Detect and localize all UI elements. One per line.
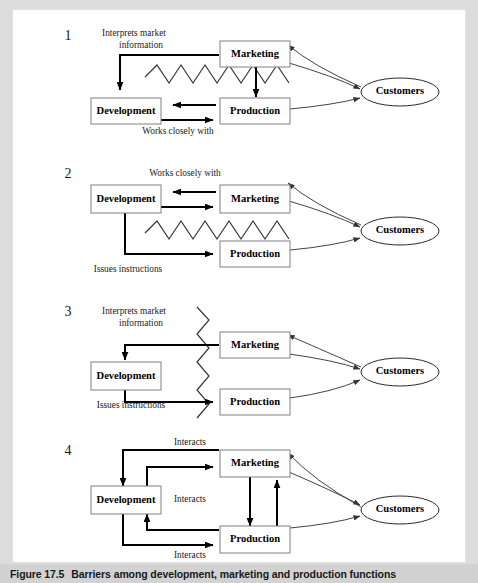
panel-4-arrow-development-to-marketing <box>147 467 213 486</box>
figure-container: 1 Interprets market information <box>0 0 478 583</box>
panel-2-annotation-issues-instructions: Issues instructions <box>94 264 163 274</box>
panel-3-label-customers: Customers <box>376 365 424 376</box>
panel-4-arrow-customers-to-marketing <box>288 453 361 507</box>
panel-4-label-marketing: Marketing <box>231 457 280 468</box>
panel-4-arrow-marketing-to-customers <box>289 472 360 505</box>
panel-3-label-development: Development <box>97 370 156 381</box>
panel-3-annotation-interprets-line2: information <box>119 318 163 328</box>
panel-1-annotation-interprets-line2: information <box>119 40 163 50</box>
panel-2-barrier-zigzag <box>145 221 289 239</box>
panel-3-label-production: Production <box>230 396 280 407</box>
panel-1-arrow-marketing-to-development <box>120 55 219 90</box>
panel-1-label-development: Development <box>97 105 156 116</box>
panel-4-label-production: Production <box>230 533 280 544</box>
panel-1-label-marketing: Marketing <box>231 48 280 59</box>
panel-1-label-production: Production <box>230 105 280 116</box>
panel-3-arrow-production-to-customers <box>290 380 360 398</box>
panel-3-label-marketing: Marketing <box>231 339 280 350</box>
figure-caption-bar: Figure 17.5Barriers among development, m… <box>0 564 478 583</box>
panel-4-label-customers: Customers <box>376 503 424 514</box>
panel-3-number: 3 <box>65 304 72 319</box>
panel-1: 1 Interprets market information <box>65 28 440 136</box>
panel-4-number: 4 <box>65 443 72 458</box>
panel-4: 4 Interacts Interacts Interacts <box>65 437 440 560</box>
panel-1-annotation-works-closely: Works closely with <box>142 126 214 136</box>
panel-2-label-customers: Customers <box>376 224 424 235</box>
panel-2-annotation-works-closely: Works closely with <box>149 168 221 178</box>
panel-4-label-development: Development <box>97 494 156 505</box>
panel-2-arrow-production-to-customers <box>290 238 360 250</box>
panel-2-number: 2 <box>65 166 72 181</box>
figure-caption-number: Figure 17.5 <box>10 568 64 580</box>
diagram-svg: 1 Interprets market information <box>13 10 465 562</box>
panel-2: 2 Works closely with Development Marketi… <box>65 166 440 274</box>
panel-4-arrow-production-to-development <box>147 514 219 530</box>
panel-1-arrow-marketing-to-customers <box>289 63 360 89</box>
figure-canvas: 1 Interprets market information <box>13 10 465 562</box>
panel-2-arrow-marketing-to-customers <box>289 201 360 227</box>
panel-3-annotation-issues-instructions: Issues instructions <box>97 400 166 410</box>
panel-1-number: 1 <box>65 28 72 43</box>
panel-1-label-customers: Customers <box>376 85 424 96</box>
panel-3-arrow-customers-to-marketing <box>288 335 361 367</box>
panel-3-annotation-interprets-line1: Interprets market <box>102 306 166 316</box>
panel-1-annotation-interprets-line1: Interprets market <box>102 28 166 38</box>
panel-2-label-production: Production <box>230 248 280 259</box>
panel-1-arrow-production-to-customers <box>290 98 360 109</box>
panel-4-annotation-top-interacts: Interacts <box>174 437 206 447</box>
panel-4-annotation-middle-interacts: Interacts <box>174 494 206 504</box>
panel-4-annotation-bottom-interacts: Interacts <box>174 550 206 560</box>
panel-2-label-marketing: Marketing <box>231 193 280 204</box>
figure-caption-title: Barriers among development, marketing an… <box>71 568 396 580</box>
panel-3: 3 Interprets market information Developm… <box>65 304 440 418</box>
panel-1-barrier-zigzag <box>145 65 289 83</box>
panel-4-arrow-production-to-customers <box>290 516 360 528</box>
panel-2-label-development: Development <box>97 193 156 204</box>
panel-2-arrow-development-to-production <box>125 213 213 254</box>
figure-caption: Figure 17.5Barriers among development, m… <box>0 568 396 580</box>
